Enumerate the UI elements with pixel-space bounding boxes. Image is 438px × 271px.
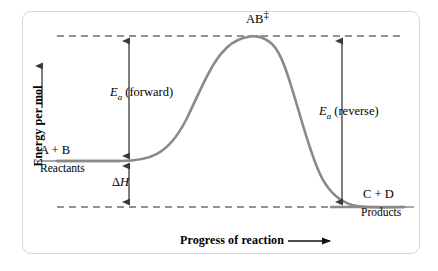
x-axis-label: Progress of reaction xyxy=(180,234,284,246)
double-dagger-icon: ‡ xyxy=(263,8,269,20)
products-name-label: Products xyxy=(361,207,401,219)
ea-forward-text: (forward) xyxy=(122,85,173,99)
delta-symbol: Δ xyxy=(112,175,120,189)
ea-forward-label: Ea (forward) xyxy=(110,86,173,99)
enthalpy-change-label: ΔH xyxy=(112,176,129,189)
energy-profile-plot xyxy=(0,0,438,271)
transition-state-label: AB‡ xyxy=(246,13,269,26)
ea-reverse-symbol: E xyxy=(319,104,327,118)
reaction-coordinate-curve xyxy=(57,36,404,207)
reactants-name-label: Reactants xyxy=(40,163,85,175)
energy-diagram-figure: AB‡ Ea (forward) Ea (reverse) A + B Reac… xyxy=(0,0,438,271)
transition-state-text: AB xyxy=(246,12,263,26)
ea-reverse-label: Ea (reverse) xyxy=(319,105,379,118)
products-species-label: C + D xyxy=(363,188,394,201)
ea-reverse-text: (reverse) xyxy=(331,104,379,118)
ea-forward-symbol: E xyxy=(110,85,118,99)
y-axis-label: Energy per mol xyxy=(32,66,44,186)
enthalpy-symbol: H xyxy=(120,175,129,189)
